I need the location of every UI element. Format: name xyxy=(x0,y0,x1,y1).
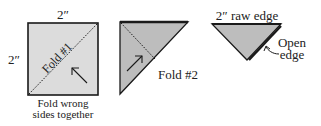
raw-edge-label: 2″ raw edge xyxy=(216,8,279,23)
folding-diagram: 2″ 2″ Fold #1 Fold wrong sides together … xyxy=(0,0,321,126)
step1-caption-line2: sides together xyxy=(33,108,94,120)
fold2-label: Fold #2 xyxy=(158,67,198,82)
step2-triangle-diagram: Fold #2 xyxy=(120,22,198,94)
step3-triangle-diagram: 2″ raw edge Open edge xyxy=(212,8,307,62)
step1-top-dimension: 2″ xyxy=(57,7,69,22)
fabric-triangle-final xyxy=(212,24,281,60)
step1-side-dimension: 2″ xyxy=(8,52,20,67)
step1-square-diagram: 2″ 2″ Fold #1 Fold wrong sides together xyxy=(8,7,98,120)
open-edge-label-line2: edge xyxy=(280,47,305,62)
